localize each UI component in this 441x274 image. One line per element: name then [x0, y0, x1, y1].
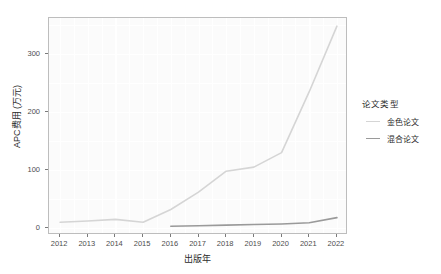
- x-tick-mark: [114, 234, 115, 237]
- line-金色论文: [60, 26, 337, 222]
- x-tick-mark: [225, 234, 226, 237]
- x-tick-mark: [142, 234, 143, 237]
- line-混合论文: [171, 218, 337, 227]
- x-tick-label: 2016: [161, 239, 178, 248]
- y-axis-title: APC费用 (万元): [10, 8, 23, 225]
- x-tick-label: 2019: [245, 239, 262, 248]
- x-tick-mark: [308, 234, 309, 237]
- x-tick-label: 2013: [78, 239, 95, 248]
- legend-line-swatch: [366, 121, 380, 123]
- y-tick-mark: [45, 53, 48, 54]
- legend-item-金色论文[interactable]: 金色论文: [362, 116, 440, 127]
- legend: 论文类型 金色论文混合论文: [362, 97, 440, 150]
- x-tick-label: 2022: [328, 239, 345, 248]
- legend-line-swatch: [366, 138, 380, 140]
- series-layer: [49, 18, 347, 234]
- legend-key: [365, 133, 381, 144]
- legend-label: 金色论文: [387, 116, 419, 127]
- x-tick-mark: [336, 234, 337, 237]
- y-tick-mark: [45, 169, 48, 170]
- x-tick-mark: [281, 234, 282, 237]
- x-tick-mark: [59, 234, 60, 237]
- plot-panel: [48, 17, 347, 234]
- y-tick-label: 200: [27, 106, 40, 115]
- y-tick-label: 100: [27, 165, 40, 174]
- y-tick-label: 0: [36, 223, 40, 232]
- chart-container: 0100200300 APC费用 (万元) 201220132014201520…: [0, 0, 441, 274]
- legend-label: 混合论文: [387, 133, 419, 144]
- x-tick-label: 2017: [189, 239, 206, 248]
- x-tick-label: 2020: [272, 239, 289, 248]
- x-tick-label: 2018: [217, 239, 234, 248]
- legend-item-混合论文[interactable]: 混合论文: [362, 133, 440, 144]
- x-tick-label: 2021: [300, 239, 317, 248]
- x-tick-mark: [253, 234, 254, 237]
- x-axis-title: 出版年: [48, 252, 347, 265]
- legend-items: 金色论文混合论文: [362, 116, 440, 144]
- x-tick-label: 2012: [51, 239, 68, 248]
- x-tick-label: 2014: [106, 239, 123, 248]
- x-tick-mark: [198, 234, 199, 237]
- x-tick-mark: [170, 234, 171, 237]
- x-tick-label: 2015: [134, 239, 151, 248]
- y-axis-tick-marks: [43, 17, 48, 234]
- y-tick-mark: [45, 111, 48, 112]
- x-tick-mark: [87, 234, 88, 237]
- legend-key: [365, 116, 381, 127]
- x-axis-tick-labels: 2012201320142015201620172018201920202021…: [48, 239, 347, 251]
- y-tick-label: 300: [27, 48, 40, 57]
- x-axis-tick-marks: [48, 234, 347, 238]
- y-tick-mark: [45, 227, 48, 228]
- legend-title: 论文类型: [362, 97, 440, 109]
